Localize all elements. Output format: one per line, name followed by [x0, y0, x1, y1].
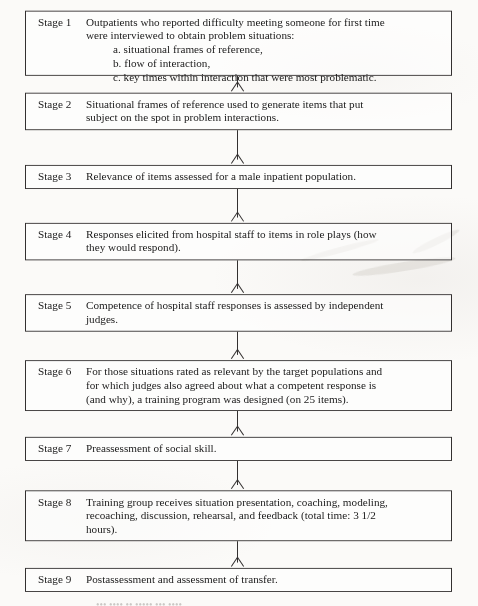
- stage-6-text-2: for which judges also agreed about what …: [86, 380, 376, 391]
- stage-1-line-2: were interviewed to obtain problem situa…: [38, 30, 445, 44]
- flow-node-stage-8: Stage 8 Training group receives situatio…: [25, 490, 452, 541]
- cropped-caption-remnant: ••• •••• •• ••••• ••• ••••: [96, 599, 366, 606]
- stage-6-label: Stage 6: [38, 366, 71, 380]
- stage-1-line-1: Stage 1 Outpatients who reported difficu…: [38, 16, 445, 30]
- connector-stage-5-to-stage-6: [228, 332, 246, 361]
- stage-4-text-2: they would respond).: [86, 243, 181, 254]
- stage-1-text-1: Outpatients who reported difficulty meet…: [86, 17, 385, 28]
- connector-stage-4-to-stage-5: [228, 260, 246, 294]
- stage-6-text-1: For those situations rated as relevant b…: [86, 366, 382, 377]
- stage-5-line-2: judges.: [38, 313, 445, 327]
- stage-1-subitem-b: b. flow of interaction,: [38, 57, 445, 71]
- stage-1-text-2: were interviewed to obtain problem situa…: [86, 31, 294, 42]
- stage-8-line-2: recoaching, discussion, rehearsal, and f…: [38, 509, 445, 523]
- stage-5-text-1: Competence of hospital staff responses i…: [86, 300, 383, 311]
- arrowhead-down-icon: [230, 82, 245, 91]
- stage-2-label: Stage 2: [38, 98, 71, 112]
- stage-6-text-3: (and why), a training program was design…: [86, 394, 349, 405]
- arrowhead-down-icon: [230, 349, 245, 358]
- stage-8-label: Stage 8: [38, 496, 71, 510]
- stage-3-label: Stage 3: [38, 170, 71, 184]
- flowchart: Stage 1 Outpatients who reported difficu…: [0, 0, 478, 592]
- flow-node-stage-7: Stage 7 Preassessment of social skill.: [25, 437, 452, 461]
- arrowhead-down-icon: [230, 212, 245, 221]
- arrowhead-down-icon: [230, 480, 245, 489]
- stage-3-line-1: Stage 3 Relevance of items assessed for …: [38, 170, 445, 184]
- stage-1-label: Stage 1: [38, 16, 71, 30]
- connector-stage-2-to-stage-3: [228, 130, 246, 165]
- flow-node-stage-9: Stage 9 Postassessment and assessment of…: [25, 568, 452, 592]
- stage-5-line-1: Stage 5 Competence of hospital staff res…: [38, 300, 445, 314]
- stage-8-line-1: Stage 8 Training group receives situatio…: [38, 496, 445, 510]
- stage-8-text-1: Training group receives situation presen…: [86, 497, 388, 508]
- stage-2-line-2: subject on the spot in problem interacti…: [38, 112, 445, 126]
- connector-stage-8-to-stage-9: [228, 541, 246, 568]
- stage-4-line-2: they would respond).: [38, 242, 445, 256]
- stage-8-line-3: hours).: [38, 523, 445, 537]
- arrowhead-down-icon: [230, 426, 245, 435]
- scanned-page-background: Stage 1 Outpatients who reported difficu…: [0, 0, 478, 606]
- stage-2-text-2: subject on the spot in problem interacti…: [86, 113, 279, 124]
- stage-4-line-1: Stage 4 Responses elicited from hospital…: [38, 228, 445, 242]
- flow-node-stage-4: Stage 4 Responses elicited from hospital…: [25, 223, 452, 260]
- stage-9-label: Stage 9: [38, 573, 71, 587]
- stage-7-text-1: Preassessment of social skill.: [86, 443, 217, 454]
- stage-7-label: Stage 7: [38, 442, 71, 456]
- stage-6-line-1: Stage 6 For those situations rated as re…: [38, 366, 445, 380]
- stage-8-text-3: hours).: [86, 524, 117, 535]
- connector-stage-1-to-stage-2: [228, 76, 246, 93]
- stage-2-line-1: Stage 2 Situational frames of reference …: [38, 98, 445, 112]
- flow-node-stage-3: Stage 3 Relevance of items assessed for …: [25, 165, 452, 189]
- arrowhead-down-icon: [230, 154, 245, 163]
- stage-9-text-1: Postassessment and assessment of transfe…: [86, 574, 278, 585]
- flow-node-stage-2: Stage 2 Situational frames of reference …: [25, 93, 452, 130]
- flow-node-stage-1: Stage 1 Outpatients who reported difficu…: [25, 11, 452, 76]
- stage-4-label: Stage 4: [38, 228, 71, 242]
- flow-node-stage-5: Stage 5 Competence of hospital staff res…: [25, 294, 452, 331]
- connector-stage-6-to-stage-7: [228, 411, 246, 437]
- stage-5-label: Stage 5: [38, 300, 71, 314]
- stage-3-text-1: Relevance of items assessed for a male i…: [86, 171, 356, 182]
- stage-7-line-1: Stage 7 Preassessment of social skill.: [38, 442, 445, 456]
- connector-stage-7-to-stage-8: [228, 461, 246, 490]
- arrowhead-down-icon: [230, 557, 245, 566]
- stage-5-text-2: judges.: [86, 314, 118, 325]
- stage-8-text-2: recoaching, discussion, rehearsal, and f…: [86, 510, 376, 521]
- stage-6-line-3: (and why), a training program was design…: [38, 393, 445, 407]
- stage-9-line-1: Stage 9 Postassessment and assessment of…: [38, 573, 445, 587]
- stage-1-subitem-a: a. situational frames of reference,: [38, 44, 445, 58]
- stage-2-text-1: Situational frames of reference used to …: [86, 99, 363, 110]
- stage-6-line-2: for which judges also agreed about what …: [38, 379, 445, 393]
- flow-node-stage-6: Stage 6 For those situations rated as re…: [25, 360, 452, 411]
- connector-stage-3-to-stage-4: [228, 189, 246, 223]
- arrowhead-down-icon: [230, 284, 245, 293]
- stage-4-text-1: Responses elicited from hospital staff t…: [86, 229, 377, 240]
